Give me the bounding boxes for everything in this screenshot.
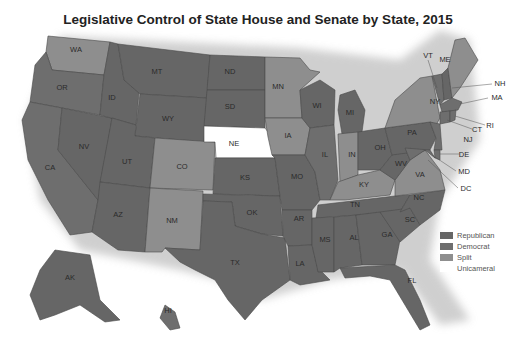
label-tx: TX <box>230 258 240 267</box>
label-mi: MI <box>346 108 354 117</box>
label-ia: IA <box>284 131 291 140</box>
label-sc: SC <box>405 215 416 224</box>
legend-label: Split <box>457 253 472 262</box>
legend-swatch-republican <box>440 232 453 239</box>
label-wv: WV <box>395 159 407 168</box>
label-vt: VT <box>423 51 433 60</box>
label-la: LA <box>295 259 304 268</box>
legend-item-republican: Republican <box>440 230 495 240</box>
label-or: OR <box>56 83 68 92</box>
label-fl: FL <box>408 276 417 285</box>
label-ks: KS <box>240 173 250 182</box>
legend-item-split: Split <box>440 252 495 262</box>
label-ri: RI <box>486 121 494 130</box>
label-nm: NM <box>166 216 178 225</box>
label-wa: WA <box>70 45 82 54</box>
label-mo: MO <box>291 172 303 181</box>
label-id: ID <box>108 93 116 102</box>
label-sd: SD <box>225 102 236 111</box>
label-va: VA <box>415 170 424 179</box>
label-ok: OK <box>247 208 258 217</box>
label-nj: NJ <box>463 135 472 144</box>
label-me: ME <box>439 55 450 64</box>
legend: Republican Democrat Split Unicameral <box>440 230 495 274</box>
label-mt: MT <box>152 67 163 76</box>
legend-item-unicameral: Unicameral <box>440 263 495 273</box>
label-oh: OH <box>374 143 385 152</box>
label-hi: HI <box>164 306 172 315</box>
label-tn: TN <box>350 200 360 209</box>
label-nd: ND <box>225 67 236 76</box>
label-ut: UT <box>122 157 132 166</box>
label-al: AL <box>349 233 358 242</box>
label-nc: NC <box>414 193 425 202</box>
us-map: WA OR CA NV ID MT WY UT AZ CO NM ND SD N… <box>0 0 516 351</box>
label-ct: CT <box>472 125 482 134</box>
legend-swatch-unicameral <box>440 265 453 272</box>
label-ca: CA <box>45 163 55 172</box>
legend-item-democrat: Democrat <box>440 241 495 251</box>
label-mn: MN <box>272 82 284 91</box>
label-ak: AK <box>65 273 75 282</box>
label-ga: GA <box>382 230 393 239</box>
label-md: MD <box>458 167 470 176</box>
label-wi: WI <box>312 101 321 110</box>
label-pa: PA <box>407 128 416 137</box>
label-ne: NE <box>229 139 239 148</box>
label-in: IN <box>348 150 356 159</box>
state-ct <box>440 111 450 124</box>
label-de: DE <box>459 150 469 159</box>
label-co: CO <box>176 162 187 171</box>
legend-swatch-split <box>440 254 453 261</box>
label-il: IL <box>322 150 328 159</box>
label-dc: DC <box>461 184 472 193</box>
label-ar: AR <box>294 214 305 223</box>
label-nv: NV <box>79 142 89 151</box>
legend-swatch-democrat <box>440 243 453 250</box>
label-ms: MS <box>319 235 330 244</box>
legend-label: Democrat <box>457 242 490 251</box>
label-ny: NY <box>430 97 440 106</box>
label-nh: NH <box>495 79 506 88</box>
label-wy: WY <box>162 114 174 123</box>
state-ak <box>30 250 120 322</box>
state-wa <box>46 36 110 75</box>
label-az: AZ <box>113 210 123 219</box>
legend-label: Unicameral <box>457 264 495 273</box>
label-ma: MA <box>491 93 502 102</box>
state-nd <box>207 55 265 90</box>
label-ky: KY <box>359 180 369 189</box>
legend-label: Republican <box>457 231 495 240</box>
